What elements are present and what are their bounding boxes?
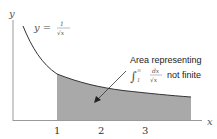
y-axis-label: y [8,8,15,19]
annotation-suffix: not finite [167,70,201,80]
x-tick-3: 3 [142,125,148,136]
function-denominator: √x [57,29,65,36]
x-tick-1: 1 [54,125,60,136]
integrand-numerator: dx [152,67,160,74]
integrand-denominator: √x [150,76,158,83]
function-lhs: y = [33,22,51,33]
x-tick-2: 2 [98,125,104,136]
integral-upper: ∞ [137,67,141,73]
improper-integral-figure: y x y = 1 √x Area representing ∫ ∞ 1 dx … [0,0,217,139]
x-axis-label: x [207,116,213,127]
integral-lower: 1 [137,77,140,83]
integral-sign: ∫ [130,69,137,84]
annotation-line1: Area representing [130,55,202,65]
function-numerator: 1 [60,20,64,27]
